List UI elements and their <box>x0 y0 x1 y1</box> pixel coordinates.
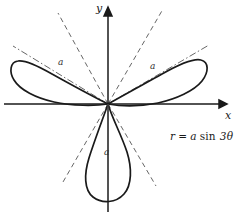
boundary-line-300deg <box>108 104 156 186</box>
y-axis-arrowhead <box>104 7 112 16</box>
equation-r: r <box>170 130 175 142</box>
polar-equation-label: r=asin3θ <box>170 131 233 142</box>
petal-axis-lines <box>13 45 209 104</box>
equation-arg: 3θ <box>220 130 233 142</box>
polar-rose-figure: y x a a a r=asin3θ <box>0 0 240 219</box>
x-axis-arrowhead <box>219 100 227 108</box>
y-axis-label: y <box>96 3 102 14</box>
equation-equals: = <box>178 130 187 142</box>
equation-sin: sin <box>200 130 216 142</box>
boundary-line-60deg <box>108 9 163 104</box>
left-petal-radius-label: a <box>58 58 63 67</box>
petal-left <box>11 61 108 105</box>
petal-boundary-lines <box>58 9 163 186</box>
right-petal-radius-label: a <box>150 62 155 71</box>
rose-curve-svg <box>0 0 240 219</box>
x-axis-label: x <box>225 110 231 121</box>
coordinate-axes <box>4 7 227 212</box>
petal-axis-150deg <box>13 46 108 104</box>
bottom-petal-radius-label: a <box>104 148 109 157</box>
petal-right <box>108 60 207 106</box>
equation-a: a <box>190 130 196 142</box>
